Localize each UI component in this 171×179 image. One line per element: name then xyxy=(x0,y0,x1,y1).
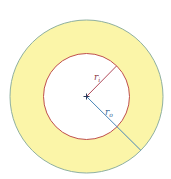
annulus-diagram: ri ro xyxy=(0,0,171,179)
